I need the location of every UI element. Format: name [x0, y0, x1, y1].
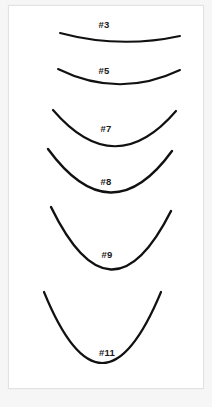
arc-curve-7 [53, 110, 176, 146]
arc-label-8: #8 [101, 176, 112, 187]
arc-label-7: #7 [101, 123, 112, 134]
arc-label-5: #5 [99, 65, 110, 76]
arc-label-3: #3 [99, 19, 110, 30]
arc-curve-5 [58, 69, 180, 84]
needle-curvature-chart-page: #3#5#7#8#9#11 [0, 0, 212, 407]
arc-label-9: #9 [102, 249, 113, 260]
arc-curve-9 [51, 207, 171, 270]
arc-label-11: #11 [99, 347, 115, 358]
arc-curve-3 [60, 33, 180, 42]
arc-group [44, 33, 180, 363]
